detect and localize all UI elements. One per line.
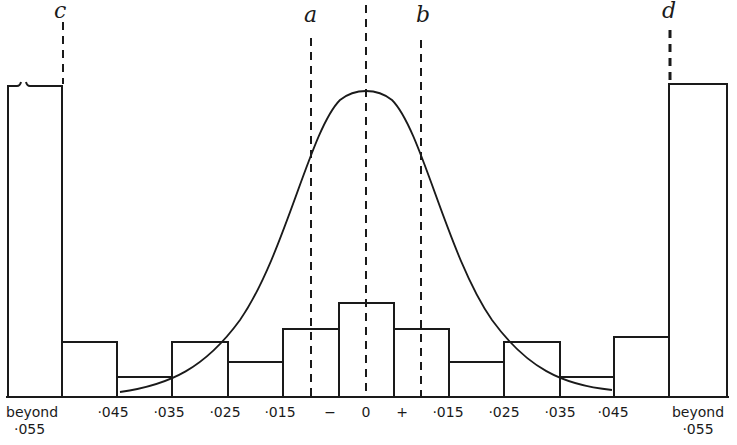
bar-beyond-right	[669, 84, 727, 397]
x-tick-neg-035: ·035	[144, 404, 194, 420]
bar-pos-025	[504, 342, 560, 397]
marker-c: c	[54, 0, 66, 23]
x-label-beyond-right: beyond ·055	[666, 404, 730, 438]
beyond-right-line2: ·055	[666, 421, 730, 438]
x-tick-pos-035: ·035	[535, 404, 585, 420]
x-tick-minus: −	[315, 404, 345, 420]
x-tick-pos-015: ·015	[423, 404, 473, 420]
x-tick-neg-045: ·045	[88, 404, 138, 420]
reference-lines	[63, 5, 670, 397]
bar-neg-045	[62, 342, 117, 397]
beyond-right-line1: beyond	[666, 404, 730, 421]
marker-a: a	[304, 2, 317, 27]
bars	[6, 82, 729, 397]
histogram-chart	[0, 0, 737, 445]
x-tick-zero: 0	[356, 404, 376, 420]
bar-neg-015	[228, 362, 283, 397]
x-label-beyond-left: beyond ·055	[6, 404, 70, 438]
x-tick-plus: +	[390, 404, 414, 420]
beyond-left-line2: ·055	[6, 421, 70, 438]
bar-pos-015	[449, 362, 504, 397]
x-tick-pos-025: ·025	[479, 404, 529, 420]
marker-d: d	[662, 0, 676, 23]
x-tick-neg-015: ·015	[255, 404, 305, 420]
beyond-left-line1: beyond	[6, 404, 70, 421]
x-tick-pos-045: ·045	[588, 404, 638, 420]
bar-pos-045	[614, 337, 669, 397]
bar-beyond-left	[8, 82, 62, 397]
x-tick-neg-025: ·025	[200, 404, 250, 420]
bar-neg-025	[172, 342, 228, 397]
marker-b: b	[416, 2, 430, 27]
